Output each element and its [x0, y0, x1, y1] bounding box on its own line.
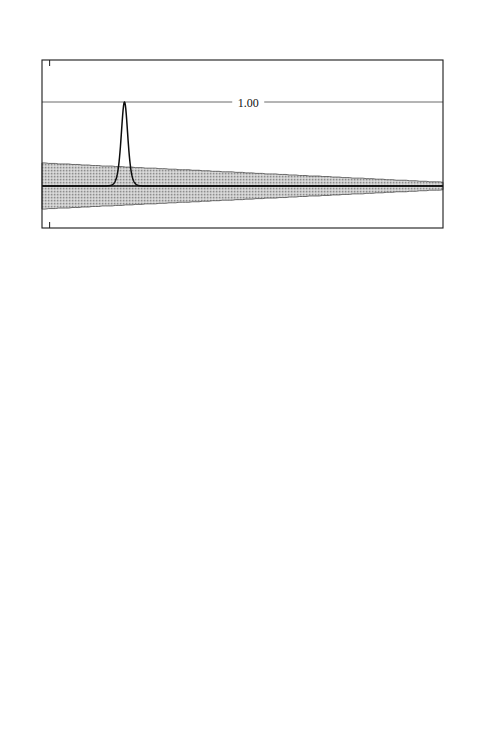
panel-III-plot	[0, 490, 493, 740]
panel-II	[0, 258, 493, 498]
amplitude-label: 1.00	[238, 96, 259, 110]
panel-II-plot	[0, 258, 493, 498]
soliton-propagation-figure: 1.00	[0, 0, 493, 746]
panel-III	[0, 490, 493, 740]
panel-I: 1.00	[0, 20, 493, 260]
panel-I-plot: 1.00	[0, 20, 493, 260]
